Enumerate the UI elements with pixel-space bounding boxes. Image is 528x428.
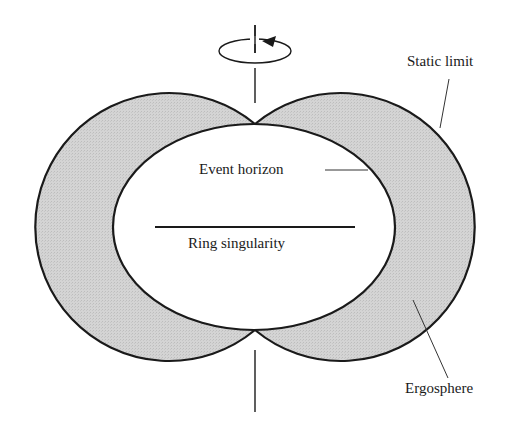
ergosphere-label: Ergosphere: [405, 381, 473, 396]
static-limit-leader: [440, 79, 449, 128]
event-horizon-label: Event horizon: [199, 162, 284, 177]
ring-singularity-label: Ring singularity: [188, 236, 285, 251]
rotation-arrow-icon: [219, 25, 291, 63]
static-limit-label: Static limit: [407, 54, 473, 69]
